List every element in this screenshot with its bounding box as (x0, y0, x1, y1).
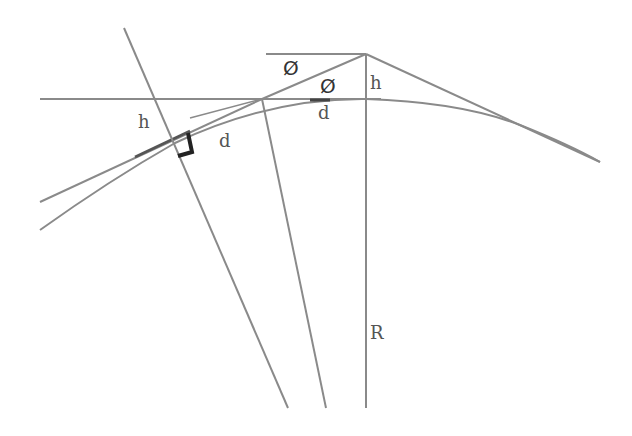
apex-left-line (262, 54, 366, 99)
slanted-line-middle (262, 99, 326, 408)
geometry-diagram: Ø Ø h h d d R (0, 0, 632, 436)
phi-label-inner: Ø (320, 76, 336, 96)
diagram-svg (0, 0, 632, 436)
h-label-left: h (138, 113, 150, 131)
h-label-right: h (370, 74, 382, 92)
right-tangent-line (366, 54, 600, 162)
r-label: R (370, 324, 384, 342)
phi-label-top: Ø (283, 58, 299, 78)
d-label-left: d (219, 132, 231, 150)
d-label-top: d (318, 104, 330, 122)
slanted-line-left (124, 28, 288, 408)
